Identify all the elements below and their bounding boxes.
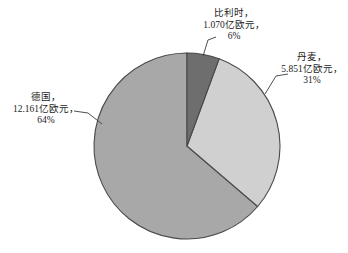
pie-label-germany-percent: 64% — [2, 115, 90, 127]
pie-label-germany-value: 12.161亿欧元， — [2, 104, 90, 116]
pie-chart-figure: 比利时， 1.070亿欧元， 6% 丹麦， 5.851亿欧元， 31% 德国， … — [0, 0, 348, 253]
pie-chart-canvas — [0, 0, 348, 253]
pie-label-germany: 德国， 12.161亿欧元， 64% — [2, 92, 90, 127]
pie-label-denmark-value: 5.851亿欧元， — [276, 64, 348, 76]
pie-label-denmark: 丹麦， 5.851亿欧元， 31% — [276, 52, 348, 87]
pie-label-belgium-name: 比利时， — [186, 8, 282, 20]
pie-label-belgium: 比利时， 1.070亿欧元， 6% — [186, 8, 282, 43]
pie-label-denmark-name: 丹麦， — [276, 52, 348, 64]
pie-label-belgium-percent: 6% — [186, 31, 282, 43]
pie-label-denmark-percent: 31% — [276, 75, 348, 87]
pie-label-belgium-value: 1.070亿欧元， — [186, 20, 282, 32]
pie-label-germany-name: 德国， — [2, 92, 90, 104]
